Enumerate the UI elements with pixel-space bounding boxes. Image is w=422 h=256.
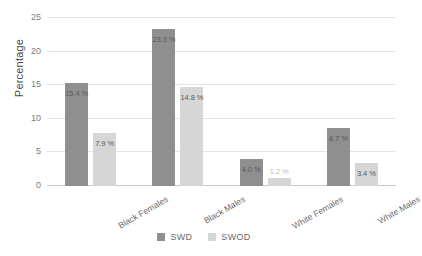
bar-value-label: 1.2 %	[270, 167, 289, 176]
bar-swod[interactable]: 3.4 %	[355, 163, 378, 186]
bar-group: 23.3 %14.8 %	[134, 18, 221, 186]
y-tick-label: 0	[36, 180, 41, 190]
legend-label: SWOD	[221, 232, 250, 242]
bar-value-label: 23.3 %	[153, 35, 176, 44]
legend-label: SWD	[170, 232, 192, 242]
x-axis-label: White Males	[377, 194, 422, 226]
bar-value-label: 7.9 %	[95, 139, 114, 148]
y-axis-title: Percentage	[13, 18, 25, 118]
bar-swd[interactable]: 23.3 %	[152, 29, 175, 186]
bar-swd[interactable]: 4.0 %	[240, 159, 263, 186]
bar-group: 8.7 %3.4 %	[309, 18, 396, 186]
bar-value-label: 15.4 %	[65, 89, 88, 98]
bar-value-label: 3.4 %	[357, 169, 376, 178]
bar-value-label: 14.8 %	[181, 93, 204, 102]
y-tick-label: 5	[36, 146, 41, 156]
bar-group: 4.0 %1.2 %	[222, 18, 309, 186]
bar-swod[interactable]: 14.8 %	[180, 87, 203, 186]
legend-swatch-icon	[157, 233, 165, 241]
bar-swd[interactable]: 8.7 %	[327, 128, 350, 186]
bar-swd[interactable]: 15.4 %	[65, 83, 88, 186]
x-axis-label: White Females	[291, 194, 345, 231]
legend-item[interactable]: SWD	[157, 232, 192, 242]
x-axis-labels: Black FemalesBlack MalesWhite FemalesWhi…	[47, 186, 396, 230]
bar-group: 15.4 %7.9 %	[47, 18, 134, 186]
plot-area: 0510152025 15.4 %7.9 %23.3 %14.8 %4.0 %1…	[47, 18, 396, 186]
y-tick-label: 25	[31, 12, 41, 22]
y-tick-label: 20	[31, 46, 41, 56]
bar-value-label: 4.0 %	[242, 165, 261, 174]
bar-groups: 15.4 %7.9 %23.3 %14.8 %4.0 %1.2 %8.7 %3.…	[47, 18, 396, 186]
y-tick-label: 10	[31, 113, 41, 123]
chart-legend: SWDSWOD	[0, 232, 408, 242]
bar-value-label: 8.7 %	[329, 134, 348, 143]
legend-item[interactable]: SWOD	[208, 232, 250, 242]
x-axis-label: Black Males	[202, 194, 247, 226]
y-tick-label: 15	[31, 79, 41, 89]
bar-swod[interactable]: 7.9 %	[93, 133, 116, 186]
legend-swatch-icon	[208, 233, 216, 241]
bar-swod[interactable]: 1.2 %	[268, 178, 291, 186]
x-axis-label: Black Females	[116, 194, 169, 231]
